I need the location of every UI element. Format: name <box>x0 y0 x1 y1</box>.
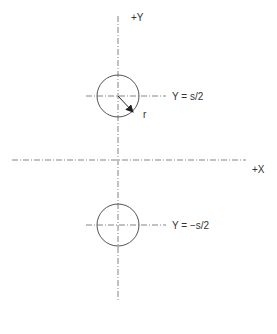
lower-circle-group: Y = −s/2 <box>86 204 210 246</box>
upper-circle-group: r Y = s/2 <box>86 75 204 120</box>
y-axis-label: +Y <box>131 12 144 23</box>
radius-label: r <box>143 109 147 120</box>
x-axis-label: +X <box>252 164 265 175</box>
upper-circle-label: Y = s/2 <box>172 91 204 102</box>
lower-circle-label: Y = −s/2 <box>172 220 210 231</box>
radius-arrow <box>118 96 133 112</box>
coordinate-diagram: +Y +X r Y = s/2 Y = −s/2 <box>0 0 277 334</box>
